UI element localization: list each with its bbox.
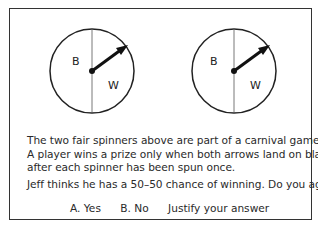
spinner-left: B W bbox=[48, 27, 136, 115]
problem-line-2: A player wins a prize only when both arr… bbox=[27, 148, 318, 162]
spinner-left-w-label: W bbox=[108, 79, 119, 92]
spinner-right-b-label: B bbox=[210, 55, 218, 68]
justify-prompt: Justify your answer bbox=[168, 202, 269, 214]
problem-question: Jeff thinks he has a 50–50 chance of win… bbox=[27, 178, 318, 192]
answer-options: A. Yes B. No Justify your answer bbox=[70, 202, 285, 214]
spinner-right: B W bbox=[190, 27, 278, 115]
option-b: B. No bbox=[120, 202, 148, 214]
problem-line-1: The two fair spinners above are part of … bbox=[27, 134, 318, 148]
spinner-left-b-label: B bbox=[72, 55, 80, 68]
problem-statement: The two fair spinners above are part of … bbox=[27, 134, 318, 175]
option-a: A. Yes bbox=[70, 202, 101, 214]
problem-line-3: after each spinner has been spun once. bbox=[27, 161, 318, 175]
spinner-right-w-label: W bbox=[250, 79, 261, 92]
